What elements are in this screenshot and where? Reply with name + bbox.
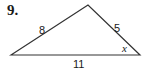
side-label-left: 8 bbox=[39, 24, 45, 36]
angle-label-x: x bbox=[121, 42, 127, 54]
triangle-diagram: 8 5 11 x bbox=[0, 0, 148, 74]
side-label-right: 5 bbox=[114, 22, 120, 34]
side-label-base: 11 bbox=[73, 58, 84, 70]
triangle bbox=[11, 5, 140, 55]
